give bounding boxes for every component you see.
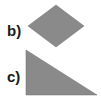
right-triangle-shape [26, 50, 97, 95]
rhombus-shape [28, 5, 84, 47]
shapes-canvas [0, 0, 101, 99]
